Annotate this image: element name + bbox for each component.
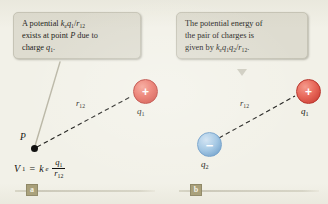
callout-b-pointer-triangle xyxy=(237,69,247,76)
charge-label-q1-sub: 1 xyxy=(142,111,145,117)
equation-potential-v1: V1 = ke q1 r12 xyxy=(14,158,65,179)
charge-q2-negative-panel-b: − xyxy=(197,132,222,157)
charge-sign-minus-icon: − xyxy=(198,138,221,151)
charge-label-q2-panel-b: q2 xyxy=(201,159,209,170)
callout-b-line-3-pre: given by xyxy=(185,43,216,52)
charge-sign-plus-icon: + xyxy=(134,86,157,98)
callout-b: The potential energy of the pair of char… xyxy=(176,12,308,59)
callout-a-line-3: charge q1. xyxy=(22,42,133,54)
charge-label-q2-sub: 2 xyxy=(206,164,209,170)
equation-fraction: q1 r12 xyxy=(52,158,65,179)
callout-a-period: . xyxy=(53,43,55,52)
charge-q1-positive-panel-b: + xyxy=(296,79,321,104)
callout-b-line-2: the pair of charges is xyxy=(185,30,300,42)
equation-k: k xyxy=(39,163,43,174)
equation-v-sub: 1 xyxy=(22,165,25,172)
distance-label-r12-panel-b: r12 xyxy=(240,98,249,109)
distance-label-r12-panel-a: r12 xyxy=(76,98,85,109)
callout-a-line-1: A potential keq1/r12 xyxy=(22,18,133,30)
charge-sign-plus-icon: + xyxy=(297,86,320,98)
panel-a: A potential keq1/r12 exists at point P d… xyxy=(0,0,164,204)
physics-figure-potential-and-potential-energy: A potential keq1/r12 exists at point P d… xyxy=(0,0,328,204)
equation-numerator: q1 xyxy=(53,158,64,168)
charge-q1-positive-panel-a: + xyxy=(133,79,158,104)
panel-badge-b: b xyxy=(190,184,202,196)
callout-a-line-2-tail: due to xyxy=(75,31,98,40)
callout-a: A potential keq1/r12 exists at point P d… xyxy=(13,12,141,59)
distance-label-r12-sub-a: 12 xyxy=(79,103,85,109)
charge-label-q1-panel-a: q1 xyxy=(137,106,145,117)
callout-a-line-3-pre: charge xyxy=(22,43,46,52)
point-p-label: P xyxy=(20,132,26,142)
equation-numerator-sub: 1 xyxy=(59,162,62,168)
equation-k-sub: e xyxy=(46,165,49,172)
charge-label-q1-sub-b: 1 xyxy=(306,111,309,117)
callout-a-line-2: exists at point P due to xyxy=(22,30,133,42)
equation-equals-sign: = xyxy=(30,163,36,174)
callout-b-line-1: The potential energy of xyxy=(185,18,300,30)
callout-b-period: . xyxy=(247,43,249,52)
callout-b-line-3: given by keq1q2/r12. xyxy=(185,42,300,54)
distance-label-r12-sub-b: 12 xyxy=(243,103,249,109)
callout-a-line-1-pre: A potential xyxy=(22,19,61,28)
equation-denominator: r12 xyxy=(52,168,65,179)
charge-label-q1-panel-b: q1 xyxy=(301,106,309,117)
equation-v: V xyxy=(14,163,20,174)
callout-a-line-2-pre: exists at point xyxy=(22,31,70,40)
point-p-marker xyxy=(31,145,38,152)
equation-denominator-sub: 12 xyxy=(58,173,64,179)
callout-a-r-sub: 12 xyxy=(79,23,85,29)
panel-badge-a: a xyxy=(26,184,38,196)
